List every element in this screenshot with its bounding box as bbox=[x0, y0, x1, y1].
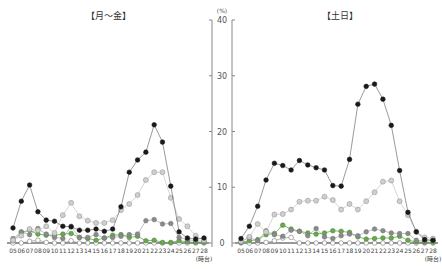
y-tick-label: 10 bbox=[217, 183, 227, 192]
data-point bbox=[61, 224, 66, 229]
data-point bbox=[177, 235, 182, 240]
x-tick-label: 09 bbox=[42, 247, 50, 254]
data-point bbox=[135, 232, 140, 237]
x-tick-label: 24 bbox=[396, 247, 404, 254]
data-point bbox=[143, 178, 148, 183]
series-black bbox=[11, 123, 207, 242]
data-point bbox=[202, 236, 207, 241]
data-point bbox=[36, 209, 41, 214]
data-point bbox=[297, 199, 302, 204]
data-point bbox=[44, 218, 49, 223]
data-point bbox=[406, 238, 411, 243]
data-point bbox=[110, 235, 115, 240]
data-point bbox=[381, 236, 386, 241]
data-point bbox=[255, 222, 260, 227]
data-point bbox=[160, 240, 165, 245]
data-point bbox=[381, 228, 386, 233]
data-point bbox=[77, 228, 82, 233]
data-point bbox=[355, 207, 360, 212]
x-tick-label: 16 bbox=[329, 247, 337, 254]
data-point bbox=[289, 235, 294, 240]
data-point bbox=[347, 241, 352, 246]
data-point bbox=[305, 163, 310, 168]
x-tick-label: 22 bbox=[150, 247, 158, 254]
data-point bbox=[94, 220, 99, 225]
data-point bbox=[372, 82, 377, 87]
data-point bbox=[297, 229, 302, 234]
data-point bbox=[52, 235, 57, 240]
data-point bbox=[102, 236, 107, 241]
data-point bbox=[69, 238, 74, 243]
y-tick-label: 30 bbox=[217, 72, 227, 81]
data-point bbox=[255, 238, 260, 243]
x-tick-label: 08 bbox=[34, 247, 42, 254]
panel-weekday: 【月～金】05060708091011121314151617181920212… bbox=[7, 10, 212, 263]
data-point bbox=[422, 237, 427, 242]
data-point bbox=[19, 199, 24, 204]
data-point bbox=[389, 123, 394, 128]
x-tick-label: 11 bbox=[287, 247, 295, 254]
data-point bbox=[331, 241, 336, 246]
panel-weekend: 【土日】050607080910111213141516171819202122… bbox=[235, 10, 441, 263]
x-tick-label: 27 bbox=[192, 247, 200, 254]
x-tick-label: 15 bbox=[321, 247, 329, 254]
x-tick-label: 13 bbox=[76, 247, 84, 254]
data-point bbox=[255, 204, 260, 209]
data-point bbox=[77, 214, 82, 219]
data-point bbox=[272, 238, 277, 243]
data-point bbox=[431, 238, 436, 243]
data-point bbox=[119, 204, 124, 209]
data-point bbox=[160, 170, 165, 175]
data-point bbox=[27, 227, 32, 232]
series-black-line bbox=[13, 125, 204, 239]
x-tick-label: 06 bbox=[246, 247, 254, 254]
x-tick-label: 14 bbox=[312, 247, 320, 254]
data-point bbox=[280, 163, 285, 168]
data-point bbox=[239, 236, 244, 241]
x-tick-label: 22 bbox=[379, 247, 387, 254]
y-tick-label: 0 bbox=[219, 239, 224, 248]
data-point bbox=[347, 201, 352, 206]
x-tick-label: 25 bbox=[404, 247, 412, 254]
data-point bbox=[397, 241, 402, 246]
data-point bbox=[372, 227, 377, 232]
x-tick-label: 19 bbox=[125, 247, 133, 254]
chart-title: 【土日】 bbox=[322, 10, 358, 21]
data-point bbox=[314, 232, 319, 237]
x-tick-label: 17 bbox=[109, 247, 117, 254]
data-point bbox=[11, 238, 16, 243]
data-point bbox=[264, 178, 269, 183]
data-point bbox=[380, 179, 385, 184]
data-point bbox=[69, 200, 74, 205]
x-tick-label: 28 bbox=[200, 247, 208, 254]
x-tick-label: 07 bbox=[26, 247, 34, 254]
data-point bbox=[414, 230, 419, 235]
data-point bbox=[135, 193, 140, 198]
data-point bbox=[297, 241, 302, 246]
data-point bbox=[331, 228, 336, 233]
data-point bbox=[289, 207, 294, 212]
x-tick-label: 27 bbox=[421, 247, 429, 254]
data-point bbox=[60, 213, 65, 218]
data-point bbox=[314, 226, 319, 231]
data-point bbox=[160, 222, 165, 227]
data-point bbox=[339, 207, 344, 212]
data-point bbox=[52, 230, 57, 235]
data-point bbox=[397, 199, 402, 204]
data-point bbox=[372, 241, 377, 246]
x-tick-label: 26 bbox=[184, 247, 192, 254]
data-point bbox=[19, 241, 24, 246]
data-point bbox=[247, 224, 252, 229]
data-point bbox=[168, 184, 173, 189]
data-point bbox=[85, 228, 90, 233]
data-point bbox=[77, 235, 82, 240]
data-point bbox=[94, 238, 99, 243]
data-point bbox=[389, 241, 394, 246]
data-point bbox=[168, 221, 173, 226]
data-point bbox=[185, 236, 190, 241]
series-black-line bbox=[241, 84, 433, 240]
data-point bbox=[397, 231, 402, 236]
data-point bbox=[414, 238, 419, 243]
series-black bbox=[239, 82, 436, 243]
data-point bbox=[94, 232, 99, 237]
